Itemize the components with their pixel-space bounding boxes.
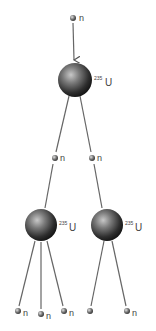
neutron-label: n	[60, 153, 65, 163]
neutron-label: n	[46, 311, 51, 321]
neutron-bottom-3: n	[61, 308, 74, 318]
uranium-nucleus-icon	[25, 209, 57, 241]
neutron-label: n	[132, 308, 137, 318]
line-n2-u3	[94, 164, 102, 208]
nucleus-u235-top: 235 U	[58, 63, 112, 97]
nucleus-u235-left: 235 U	[25, 209, 76, 241]
incoming-arrow	[73, 23, 74, 60]
neutron-label: n	[79, 13, 84, 23]
neutron-bottom-4	[87, 308, 93, 314]
uranium-nucleus-icon	[91, 209, 123, 241]
neutron-icon	[70, 15, 76, 21]
neutron-incoming: n	[70, 13, 84, 23]
mass-number: 235	[59, 220, 68, 226]
fission-diagram: n 235 U n n 235 U 235 U n n n	[0, 0, 156, 331]
element-symbol: U	[105, 77, 112, 88]
neutron-bottom-5: n	[124, 308, 137, 318]
line-u1-n2	[80, 96, 91, 152]
neutron-icon	[15, 308, 21, 314]
neutron-mid-right: n	[89, 153, 102, 163]
line-u1-n1	[56, 96, 69, 152]
neutron-label: n	[23, 308, 28, 318]
mass-number: 235	[94, 75, 103, 81]
neutron-icon	[61, 308, 67, 314]
uranium-nucleus-icon	[58, 63, 92, 97]
neutron-icon	[87, 308, 93, 314]
neutron-icon	[124, 308, 130, 314]
mass-number: 235	[125, 220, 134, 226]
element-symbol: U	[69, 222, 76, 233]
line-u2-n5	[47, 241, 63, 306]
neutron-bottom-1: n	[15, 308, 28, 318]
line-u3-n6	[91, 241, 104, 306]
neutron-icon	[38, 311, 44, 317]
neutron-label: n	[69, 308, 74, 318]
line-u2-n3	[19, 241, 35, 306]
element-symbol: U	[135, 222, 142, 233]
nucleus-u235-right: 235 U	[91, 209, 142, 241]
neutron-label: n	[97, 153, 102, 163]
neutron-bottom-2: n	[38, 311, 51, 321]
line-n1-u2	[45, 164, 53, 208]
neutron-icon	[52, 155, 58, 161]
line-u3-n7	[112, 241, 126, 306]
neutron-icon	[89, 155, 95, 161]
neutron-mid-left: n	[52, 153, 65, 163]
